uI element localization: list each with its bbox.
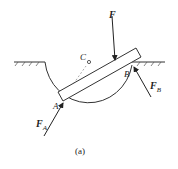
label-force-FA: FA	[36, 119, 47, 132]
label-point-B: B	[124, 70, 130, 79]
label-force-FB-main: F	[150, 80, 157, 91]
ground-left	[14, 62, 45, 66]
force-F-arrow	[112, 16, 115, 60]
label-point-C: C	[80, 53, 86, 62]
point-C-marker	[87, 60, 90, 63]
label-point-A: A	[53, 102, 59, 111]
label-force-FB: FB	[150, 81, 161, 94]
force-FB-arrow	[134, 67, 151, 97]
label-force-FA-main: F	[36, 118, 43, 129]
label-force-FB-sub: B	[157, 86, 161, 94]
label-force-FA-sub: A	[43, 124, 47, 132]
figure-caption: (a)	[75, 147, 85, 156]
label-force-F: F	[109, 10, 116, 20]
diagram-canvas: F C B A FB FA (a)	[0, 0, 178, 169]
ground-right	[132, 62, 165, 66]
